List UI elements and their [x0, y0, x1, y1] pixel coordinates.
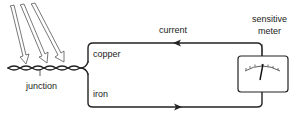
copper-label: copper	[93, 49, 121, 59]
meter-label-line2: meter	[258, 26, 281, 36]
meter-label-line1: sensitive	[252, 14, 287, 24]
heat-arrows	[10, 3, 64, 64]
junction-twist	[8, 62, 88, 76]
iron-wire	[88, 74, 262, 107]
sensitive-meter	[238, 44, 288, 92]
iron-label: iron	[93, 89, 108, 99]
junction-label: junction	[25, 81, 57, 91]
thermocouple-diagram: current copper iron junction sensitive m…	[0, 0, 296, 121]
current-label: current	[159, 25, 188, 35]
